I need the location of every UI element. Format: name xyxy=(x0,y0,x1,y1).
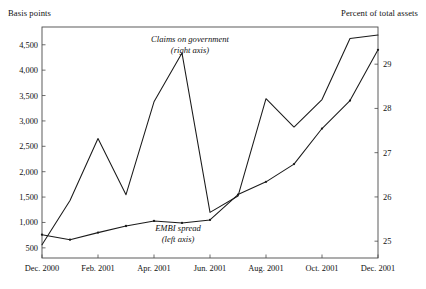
data-point-marker xyxy=(349,99,351,101)
series-annotation: Claims on government xyxy=(151,34,229,44)
right-tick-label: 27 xyxy=(383,149,391,158)
right-tick-label: 26 xyxy=(383,193,391,202)
right-tick-label: 28 xyxy=(383,104,391,113)
x-tick-label: Oct. 2001 xyxy=(305,264,338,273)
x-tick-label: Aug. 2001 xyxy=(248,264,283,273)
data-series-group xyxy=(41,35,379,245)
left-axis-ticks: 5001,0001,5002,0002,5003,0003,5004,0004,… xyxy=(19,41,45,253)
left-tick-label: 4,500 xyxy=(19,41,38,50)
data-point-marker xyxy=(209,219,211,221)
data-point-marker xyxy=(69,239,71,241)
right-axis-ticks: 2526272829 xyxy=(375,60,392,246)
series-annotation-axis: (right axis) xyxy=(171,45,210,55)
right-tick-label: 25 xyxy=(383,237,391,246)
x-tick-label: Dec. 2001 xyxy=(361,264,395,273)
right-tick-label: 29 xyxy=(383,60,391,69)
chart-figure: Basis points Percent of total assets 500… xyxy=(0,0,426,289)
data-point-marker xyxy=(97,231,99,233)
data-point-marker xyxy=(377,49,379,51)
chart-plot: 5001,0001,5002,0002,5003,0003,5004,0004,… xyxy=(0,0,426,289)
series-annotation: EMBI spread xyxy=(154,223,201,233)
data-point-marker xyxy=(293,163,295,165)
data-point-marker xyxy=(321,127,323,129)
series-annotations: Claims on government(right axis)EMBI spr… xyxy=(151,34,229,244)
series-annotation-axis: (left axis) xyxy=(162,234,195,244)
left-tick-label: 4,000 xyxy=(19,66,38,75)
left-tick-label: 2,500 xyxy=(19,142,38,151)
x-tick-label: Dec. 2000 xyxy=(25,264,59,273)
series-line xyxy=(42,35,378,245)
x-tick-label: Feb. 2001 xyxy=(81,264,115,273)
x-tick-label: Jun. 2001 xyxy=(194,264,227,273)
plot-frame xyxy=(42,27,378,258)
data-point-marker xyxy=(265,181,267,183)
left-tick-label: 3,000 xyxy=(19,117,38,126)
left-tick-label: 1,000 xyxy=(19,218,38,227)
left-tick-label: 500 xyxy=(25,244,38,253)
left-tick-label: 3,500 xyxy=(19,92,38,101)
data-point-marker xyxy=(41,234,43,236)
data-point-marker xyxy=(125,225,127,227)
left-tick-label: 1,500 xyxy=(19,193,38,202)
x-axis-ticks: Dec. 2000Feb. 2001Apr. 2001Jun. 2001Aug.… xyxy=(25,255,395,274)
x-tick-label: Apr. 2001 xyxy=(137,264,171,273)
data-point-marker xyxy=(153,220,155,222)
left-tick-label: 2,000 xyxy=(19,168,38,177)
